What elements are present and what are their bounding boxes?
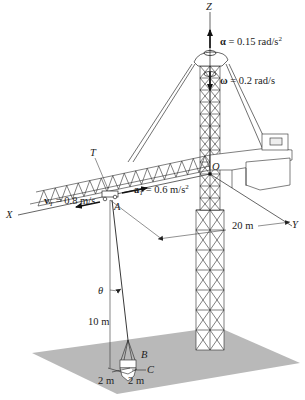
lattice-member	[153, 166, 159, 182]
trolley-label-leader	[95, 158, 108, 189]
z-axis-label: Z	[206, 1, 212, 12]
lattice-member	[159, 166, 165, 180]
dim-arrow-right	[258, 222, 290, 226]
lattice-member	[165, 163, 171, 179]
bucket-label: B	[141, 349, 148, 360]
omega-label: ω = 0.2 rad/s	[220, 75, 275, 86]
lattice-member	[176, 161, 182, 177]
tower-head	[194, 52, 228, 66]
lattice-member	[188, 159, 194, 175]
lattice-member	[90, 181, 96, 194]
lattice-member	[107, 176, 113, 192]
lattice-member	[193, 159, 199, 173]
origin-label: O	[212, 161, 220, 172]
lattice-member	[124, 173, 130, 187]
lattice-member	[38, 190, 44, 206]
lattice-member	[142, 168, 148, 184]
theta-label: θ	[98, 285, 103, 296]
ground-point-label: C	[147, 364, 155, 375]
y-axis-label: Y	[292, 219, 299, 230]
origin-point	[208, 172, 212, 176]
lattice-member	[182, 161, 188, 175]
dim-left-label: 2 m	[98, 375, 114, 386]
lattice-member	[147, 168, 153, 182]
ground-plane	[32, 327, 300, 394]
hoist-cable	[112, 200, 128, 340]
hook-label: A	[113, 201, 121, 212]
x-axis-label: X	[5, 209, 13, 220]
aT-label: aT = 0.6 m/s2	[134, 183, 189, 197]
alpha-label: α = 0.15 rad/s2	[220, 35, 282, 47]
dim-right-label: 2 m	[128, 375, 144, 386]
lattice-member	[119, 173, 125, 189]
crane-diagram: Z X Y O T A B C α = 0.15 rad/s2 ω = 0.2 …	[0, 0, 305, 400]
distance-label: 20 m	[232, 220, 253, 231]
diagram-canvas: Z X Y O T A B C α = 0.15 rad/s2 ω = 0.2 …	[0, 0, 305, 400]
theta-arc	[110, 289, 121, 291]
lattice-member	[84, 181, 90, 197]
trolley	[102, 191, 118, 201]
trolley-label: T	[90, 147, 97, 158]
height-label: 10 m	[88, 316, 109, 327]
lattice-member	[96, 178, 102, 194]
lattice-member	[113, 176, 119, 189]
lattice-member	[170, 163, 176, 177]
lattice-member	[136, 171, 142, 185]
